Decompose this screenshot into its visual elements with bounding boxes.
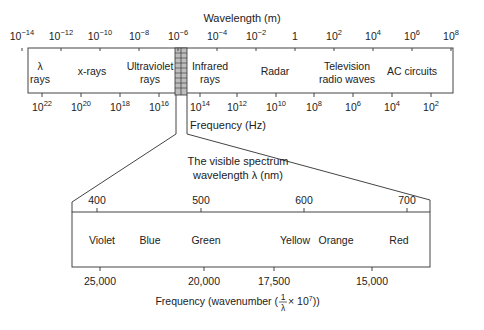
wavenumber-tick-label: 17,500 xyxy=(258,275,290,287)
visible-spectrum-subtitle: wavelength λ (nm) xyxy=(192,169,283,181)
nm-tick-label: 500 xyxy=(192,194,210,206)
wavenumber-tick-label: 15,000 xyxy=(356,275,388,287)
band-labels: λraysx-raysUltravioletraysInfraredraysRa… xyxy=(30,60,437,85)
frequency-tick-label: 1018 xyxy=(110,99,130,113)
color-label: Red xyxy=(389,234,408,246)
nm-tick-label: 600 xyxy=(295,194,313,206)
wavenumber-axis-title: Frequency (wavenumber ( 1 λ × 107)) xyxy=(155,292,319,313)
frequency-tick-label: 108 xyxy=(306,99,322,113)
wavelength-axis-title: Wavelength (m) xyxy=(203,12,280,24)
frequency-axis-title: Frequency (Hz) xyxy=(190,119,266,131)
frequency-tick-labels: 1022102010181016101410121010108106104102 xyxy=(32,99,439,113)
wavelength-tick-label: 10−14 xyxy=(10,28,34,42)
frequency-tick-marks xyxy=(42,93,431,97)
wavelength-tick-label: 102 xyxy=(326,28,342,42)
nm-tick-marks xyxy=(97,208,407,212)
wavelength-tick-label: 10−4 xyxy=(207,28,227,42)
frequency-tick-label: 1020 xyxy=(71,99,91,113)
wavelength-tick-label: 108 xyxy=(443,28,459,42)
wavelength-tick-label: 10−8 xyxy=(129,28,149,42)
band-label: Ultraviolet xyxy=(127,60,174,72)
wavenumber-tick-labels: 25,00020,00017,50015,000 xyxy=(84,275,388,287)
wavelength-tick-label: 10−12 xyxy=(49,28,73,42)
wavelength-tick-label: 104 xyxy=(365,28,381,42)
visible-band-marker xyxy=(175,48,187,95)
frequency-tick-label: 1012 xyxy=(227,99,247,113)
wavenumber-tick-label: 25,000 xyxy=(84,275,116,287)
frequency-tick-label: 1010 xyxy=(266,99,286,113)
color-label: Orange xyxy=(318,234,353,246)
wavenumber-tick-marks xyxy=(100,267,372,271)
frequency-tick-label: 102 xyxy=(423,99,439,113)
svg-text:1: 1 xyxy=(281,292,286,302)
color-label: Green xyxy=(191,234,220,246)
band-label: rays xyxy=(140,73,160,85)
band-label: Infrared xyxy=(192,60,228,72)
color-label: Violet xyxy=(89,234,115,246)
wavenumber-tick-label: 20,000 xyxy=(188,275,220,287)
wavelength-tick-label: 1 xyxy=(292,30,298,42)
band-label: λ xyxy=(37,60,43,72)
nm-tick-label: 700 xyxy=(398,194,416,206)
svg-text:× 107)): × 107)) xyxy=(288,295,320,307)
band-label: AC circuits xyxy=(387,65,437,77)
band-label: Radar xyxy=(261,65,290,77)
frequency-tick-label: 106 xyxy=(345,99,361,113)
band-label: rays xyxy=(30,73,50,85)
frequency-tick-label: 1014 xyxy=(190,99,210,113)
color-labels: VioletBlueGreenYellowOrangeRed xyxy=(89,234,409,246)
band-label: x-rays xyxy=(78,65,107,77)
electromagnetic-spectrum-diagram: Wavelength (m) 10−1410−1210−1010−810−610… xyxy=(0,0,484,330)
color-label: Blue xyxy=(139,234,160,246)
wavelength-tick-label: 10−6 xyxy=(168,28,188,42)
nm-tick-labels: 400500600700 xyxy=(88,194,416,206)
visible-spectrum-box xyxy=(72,212,430,267)
band-label: radio waves xyxy=(319,73,375,85)
band-label: rays xyxy=(200,73,220,85)
frequency-tick-label: 1016 xyxy=(149,99,169,113)
frequency-tick-label: 1022 xyxy=(32,99,52,113)
nm-tick-label: 400 xyxy=(88,194,106,206)
band-label: Television xyxy=(324,60,370,72)
svg-text:λ: λ xyxy=(281,303,286,313)
wavelength-tick-label: 10−10 xyxy=(88,28,112,42)
frequency-tick-label: 104 xyxy=(384,99,400,113)
svg-text:Frequency (wavenumber (: Frequency (wavenumber ( xyxy=(155,295,278,307)
visible-spectrum-title: The visible spectrum xyxy=(188,155,289,167)
color-label: Yellow xyxy=(280,234,310,246)
wavelength-tick-labels: 10−1410−1210−1010−810−610−410−2110210410… xyxy=(10,28,459,42)
wavelength-tick-label: 10−2 xyxy=(246,28,266,42)
wavelength-tick-label: 106 xyxy=(404,28,420,42)
